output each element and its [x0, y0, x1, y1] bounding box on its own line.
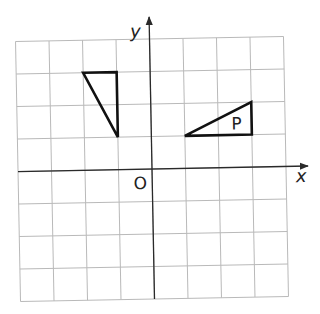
y-axis-label: y: [129, 20, 141, 41]
y-axis: [149, 17, 154, 299]
triangle-p-label: P: [231, 113, 242, 133]
coordinate-diagram: P x y O: [0, 0, 320, 314]
origin-label: O: [133, 173, 147, 193]
x-axis: [18, 166, 308, 172]
coordinate-plane: P x y O: [15, 14, 310, 302]
x-axis-label: x: [295, 165, 307, 186]
